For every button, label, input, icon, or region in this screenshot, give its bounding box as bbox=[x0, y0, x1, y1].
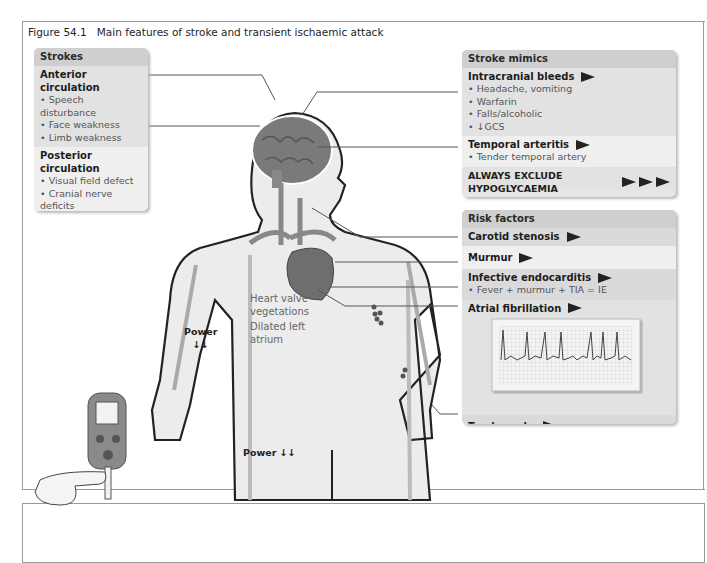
list-item: • Speech disturbance bbox=[40, 94, 142, 119]
heart-label: atrium bbox=[250, 333, 309, 346]
strokes-box: Strokes Anterior circulation • Speech di… bbox=[34, 48, 148, 211]
arrow-right-icon bbox=[656, 177, 670, 187]
hypoglycaemia-warning: ALWAYS EXCLUDE HYPOGLYCAEMIA bbox=[468, 169, 670, 195]
mimics-header: Stroke mimics bbox=[462, 50, 676, 68]
temporal-title: Temporal arteritis bbox=[468, 138, 670, 151]
anterior-title: Anterior circulation bbox=[40, 68, 142, 94]
list-item: • Cranial nerve deficits bbox=[40, 188, 142, 212]
risk-endocarditis: Infective endocarditis • Fever + murmur … bbox=[462, 269, 676, 300]
list-item: • Face weakness bbox=[40, 119, 142, 132]
power-arrows: ↓↓ bbox=[184, 338, 217, 351]
risk-title: Track marks bbox=[468, 420, 670, 425]
arrow-right-icon bbox=[567, 232, 581, 242]
risk-murmur: Murmur bbox=[462, 246, 676, 269]
risk-title: Murmur bbox=[468, 251, 670, 264]
list-item: • Visual field defect bbox=[40, 175, 142, 188]
list-item: • Falls/alcoholic bbox=[468, 108, 670, 121]
list-item: • Limb weakness bbox=[40, 132, 142, 145]
risk-track-marks: Track marks bbox=[462, 415, 676, 425]
posterior-circulation-section: Posterior circulation • Visual field def… bbox=[34, 147, 148, 211]
arrow-right-icon bbox=[568, 303, 582, 313]
list-item: • Headache, vomiting bbox=[468, 83, 670, 96]
heart-labels: Heart valve vegetations Dilated left atr… bbox=[250, 292, 309, 346]
list-item: • ↓GCS bbox=[468, 121, 670, 134]
leg-power-label: Power ↓↓ bbox=[243, 446, 296, 459]
risk-carotid: Carotid stenosis bbox=[462, 228, 676, 246]
glucometer-icon bbox=[35, 393, 126, 505]
list-item: • Tender temporal artery bbox=[468, 151, 670, 164]
arrow-right-icon bbox=[519, 253, 533, 263]
list-item: • Warfarin bbox=[468, 96, 670, 109]
temporal-arteritis-section: Temporal arteritis • Tender temporal art… bbox=[462, 136, 676, 167]
arrow-right-icon bbox=[639, 177, 653, 187]
heart-label: Dilated left bbox=[250, 320, 309, 333]
risk-title: Atrial fibrillation bbox=[468, 302, 670, 315]
intracranial-title: Intracranial bleeds bbox=[468, 70, 670, 83]
arrow-right-icon bbox=[576, 140, 590, 150]
arrow-right-icon bbox=[598, 273, 612, 283]
risk-af: Atrial fibrillation bbox=[462, 300, 676, 415]
posterior-title: Posterior circulation bbox=[40, 149, 142, 175]
risk-title: Infective endocarditis bbox=[468, 271, 670, 284]
strokes-header: Strokes bbox=[34, 48, 148, 66]
heart-label: vegetations bbox=[250, 305, 309, 318]
arrow-right-icon bbox=[622, 177, 636, 187]
power-text: Power bbox=[184, 325, 217, 338]
arrow-right-icon bbox=[581, 72, 595, 82]
list-item: • Fever + murmur + TIA = IE bbox=[468, 284, 670, 297]
risk-title: Carotid stenosis bbox=[468, 230, 670, 243]
heart-label: Heart valve bbox=[250, 292, 309, 305]
intracranial-bleeds-section: Intracranial bleeds • Headache, vomiting… bbox=[462, 68, 676, 136]
anterior-circulation-section: Anterior circulation • Speech disturbanc… bbox=[34, 66, 148, 147]
ecg-strip-icon bbox=[491, 318, 643, 394]
stroke-mimics-box: Stroke mimics Intracranial bleeds • Head… bbox=[462, 50, 676, 197]
risk-header: Risk factors bbox=[462, 210, 676, 228]
hypoglycaemia-footer: ALWAYS EXCLUDE HYPOGLYCAEMIA bbox=[462, 167, 676, 190]
arrow-right-icon bbox=[543, 421, 557, 424]
risk-factors-box: Risk factors Carotid stenosis Murmur Inf… bbox=[462, 210, 676, 424]
arm-power-label: Power ↓↓ bbox=[184, 325, 217, 351]
